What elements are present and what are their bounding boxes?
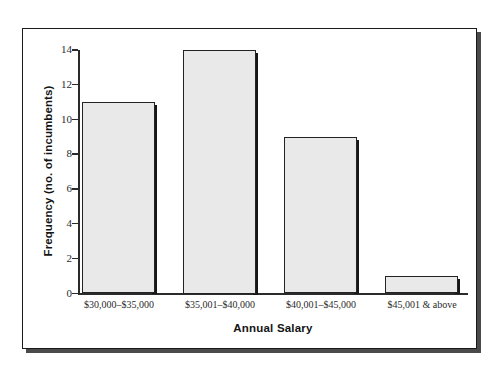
x-tick-label-3: $40,001–$45,000	[280, 299, 362, 310]
y-tick-mark-8	[72, 153, 78, 155]
y-axis-title: Frequency (no. of incumbents)	[42, 51, 54, 291]
chart-figure: 0 2 4 6 8 10 12 14	[0, 0, 501, 374]
y-tick-mark-2	[72, 258, 78, 260]
x-axis-title: Annual Salary	[78, 322, 468, 334]
y-tick-mark-12	[72, 84, 78, 86]
x-tick-label-1: $30,000–$35,000	[78, 299, 160, 310]
y-tick-mark-6	[72, 188, 78, 190]
x-tick-label-4: $45,001 & above	[381, 299, 463, 310]
y-tick-mark-0	[72, 293, 78, 295]
bar-1[interactable]	[82, 102, 155, 293]
bar-3[interactable]	[284, 137, 357, 294]
bar-2[interactable]	[183, 50, 256, 294]
y-axis-line	[78, 50, 80, 294]
y-tick-mark-14	[72, 49, 78, 51]
y-tick-mark-4	[72, 223, 78, 225]
plot-area: 0 2 4 6 8 10 12 14	[0, 0, 501, 374]
x-tick-label-2: $35,001–$40,000	[179, 299, 261, 310]
bar-4[interactable]	[385, 276, 458, 293]
y-tick-mark-10	[72, 119, 78, 121]
